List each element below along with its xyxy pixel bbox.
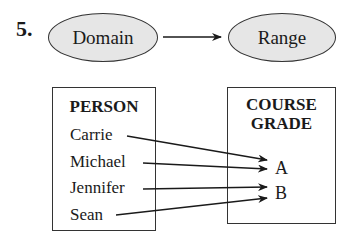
mapping-diagram: 5. Domain Range PERSON Carrie Michael Je… — [0, 0, 363, 244]
grade-item-a: A — [275, 158, 288, 178]
problem-number: 5. — [16, 18, 33, 40]
person-set-title: PERSON — [52, 97, 156, 116]
course-grade-title-line2: GRADE — [227, 114, 336, 133]
person-item-sean: Sean — [70, 205, 103, 225]
person-item-jennifer: Jennifer — [70, 178, 125, 198]
range-label: Range — [258, 27, 307, 49]
domain-label: Domain — [72, 27, 133, 49]
range-ellipse: Range — [228, 13, 336, 62]
grade-item-b: B — [275, 183, 287, 203]
person-item-michael: Michael — [70, 152, 126, 172]
person-item-carrie: Carrie — [70, 125, 112, 145]
course-grade-title-line1: COURSE — [227, 95, 336, 114]
course-grade-set-title: COURSE GRADE — [227, 95, 336, 133]
domain-ellipse: Domain — [48, 13, 158, 62]
